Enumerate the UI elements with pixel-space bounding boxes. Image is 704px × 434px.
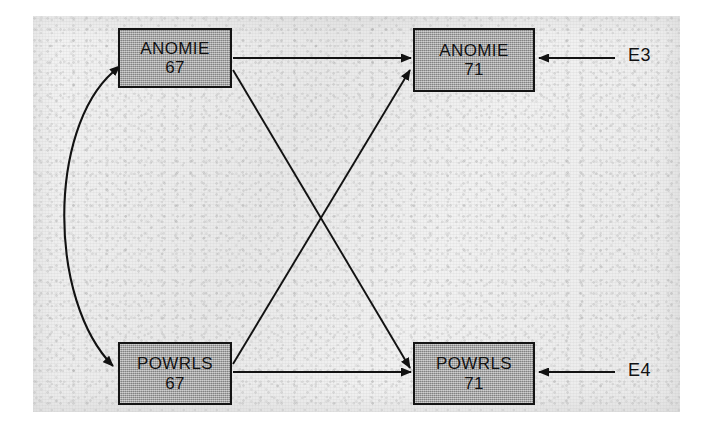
node-powrls-67-year: 67 [165,374,185,393]
residual-label-e3: E3 [628,45,651,66]
residual-label-e4: E4 [628,360,651,381]
node-powrls-67[interactable]: POWRLS 67 [118,342,232,405]
node-anomie-71-year: 71 [464,60,484,79]
node-anomie-71[interactable]: ANOMIE 71 [413,28,535,92]
node-powrls-71-label: POWRLS [436,354,512,373]
node-powrls-71-year: 71 [464,374,484,393]
edge-layer [0,0,704,434]
node-anomie-71-label: ANOMIE [439,41,508,60]
node-powrls-67-label: POWRLS [137,354,213,373]
edge-anomie67-powrls67-correlation [64,72,113,366]
node-powrls-71[interactable]: POWRLS 71 [413,342,535,405]
node-anomie-67-year: 67 [165,58,185,77]
node-anomie-67-label: ANOMIE [140,39,209,58]
node-anomie-67[interactable]: ANOMIE 67 [118,28,232,88]
diagram-canvas: ANOMIE 67 ANOMIE 71 POWRLS 67 POWRLS 71 … [0,0,704,434]
